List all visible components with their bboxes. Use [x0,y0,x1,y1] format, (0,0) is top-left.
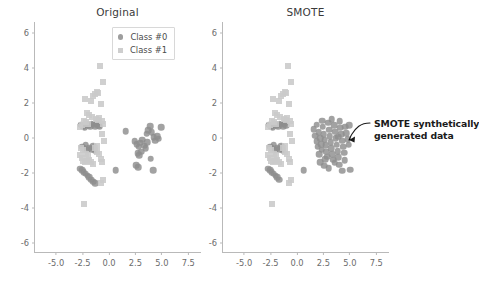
annotation-line-2: generated data [374,130,479,142]
annotation-text: SMOTE synthetically generated data [374,118,479,143]
annotation-line-1: SMOTE synthetically [374,118,479,130]
